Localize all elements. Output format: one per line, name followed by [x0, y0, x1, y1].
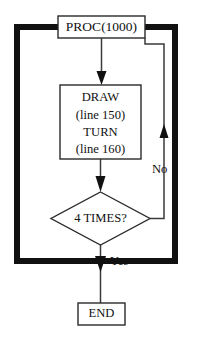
flowchart-svg: PROC(1000) DRAW (line 150) TURN (line 16…	[0, 0, 200, 345]
node-end[interactable]: END	[78, 303, 125, 325]
process-line-2: (line 150)	[76, 108, 125, 122]
start-box-label: PROC(1000)	[66, 19, 137, 34]
connector-yes-branch	[95, 245, 106, 303]
process-line-1: DRAW	[82, 90, 120, 104]
process-line-3: TURN	[83, 125, 117, 139]
end-box-label: END	[89, 306, 115, 320]
node-process[interactable]: DRAW (line 150) TURN (line 160)	[60, 85, 141, 159]
connector-start-to-process	[97, 38, 107, 85]
connector-process-to-decision	[96, 159, 106, 192]
flowchart-canvas: PROC(1000) DRAW (line 150) TURN (line 16…	[0, 0, 200, 345]
node-decision[interactable]: 4 TIMES?	[51, 192, 150, 245]
edge-label-no: No	[152, 162, 167, 176]
arrowhead-down-icon	[97, 71, 107, 85]
edge-label-yes: Yes	[110, 254, 128, 268]
arrowhead-down-icon	[96, 176, 106, 192]
process-line-4: (line 160)	[76, 142, 125, 156]
connector-no-branch	[145, 38, 169, 219]
arrowhead-up-icon	[160, 124, 169, 138]
decision-label: 4 TIMES?	[74, 211, 127, 225]
node-start[interactable]: PROC(1000)	[58, 16, 145, 38]
